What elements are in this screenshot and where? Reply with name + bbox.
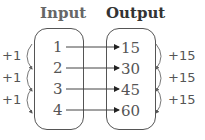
input-step-arcs xyxy=(27,44,32,113)
mapping-arrows xyxy=(66,47,119,110)
curved-arrow-icon xyxy=(27,66,32,91)
arrows-layer xyxy=(0,0,205,140)
curved-arrow-icon xyxy=(27,88,32,113)
curved-arrow-icon xyxy=(156,66,161,91)
curved-arrow-icon xyxy=(156,44,161,69)
curved-arrow-icon xyxy=(27,44,32,69)
output-step-arcs xyxy=(156,44,161,113)
curved-arrow-icon xyxy=(156,88,161,113)
